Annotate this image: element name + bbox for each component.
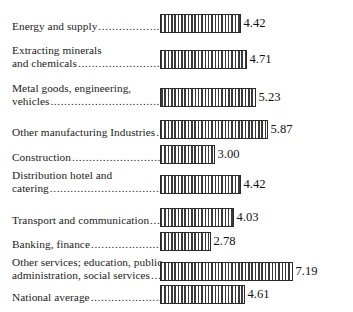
- category-label-line: Transport and communication......: [12, 214, 160, 227]
- chart-row: Other manufacturing Industries....5.87: [0, 119, 353, 139]
- bar-cell: 5.87: [160, 119, 293, 139]
- category-label: Transport and communication......: [0, 214, 160, 227]
- leader-dots: ......: [150, 214, 160, 227]
- leader-dots: ......: [151, 269, 160, 282]
- horizontal-bar-chart: Energy and supply.......................…: [0, 0, 353, 312]
- category-label-line: catering................................…: [12, 182, 160, 195]
- category-label-text: catering: [12, 182, 49, 195]
- category-label: Other manufacturing Industries....: [0, 126, 160, 139]
- bar: [160, 232, 211, 251]
- bar: [160, 14, 241, 33]
- bar-value-label: 3.00: [218, 148, 240, 161]
- category-label-line: Other services; education, public: [12, 256, 160, 269]
- bar: [160, 88, 256, 107]
- category-label: Other services; education, publicadminis…: [0, 256, 160, 281]
- category-label-line: vehicles................................…: [12, 95, 160, 108]
- bar-value-label: 7.19: [296, 265, 318, 278]
- leader-dots: ..............................: [91, 291, 160, 304]
- category-label-text: administration, social services: [12, 269, 150, 282]
- chart-row: Construction............................…: [0, 144, 353, 164]
- bar-cell: 4.71: [160, 50, 272, 70]
- category-label: Construction............................…: [0, 151, 160, 164]
- leader-dots: ........................................: [50, 95, 160, 108]
- category-label: Energy and supply.......................…: [0, 20, 160, 33]
- chart-row: National average........................…: [0, 284, 353, 304]
- leader-dots: .............................: [91, 238, 160, 251]
- category-label-line: Distribution hotel and: [12, 169, 160, 182]
- category-label-line: National average........................…: [12, 291, 160, 304]
- chart-row: Metal goods, engineering,vehicles.......…: [0, 82, 353, 107]
- category-label-text: and chemicals: [12, 57, 77, 70]
- category-label-text: Transport and communication: [12, 214, 149, 227]
- leader-dots: ..........................: [98, 20, 160, 33]
- bar: [160, 120, 268, 139]
- leader-dots: ...................................: [72, 151, 160, 164]
- bar-cell: 2.78: [160, 231, 236, 251]
- category-label: Banking, finance........................…: [0, 238, 160, 251]
- bar-cell: 7.19: [160, 262, 318, 282]
- leader-dots: ..............................: [78, 57, 160, 70]
- category-label: National average........................…: [0, 291, 160, 304]
- category-label-line: Extracting minerals: [12, 44, 160, 57]
- bar: [160, 175, 241, 194]
- chart-row: Other services; education, publicadminis…: [0, 256, 353, 281]
- category-label: Distribution hotel andcatering..........…: [0, 169, 160, 194]
- bar-value-label: 4.71: [250, 53, 272, 66]
- category-label-text: Banking, finance: [12, 238, 90, 251]
- bar-cell: 4.42: [160, 13, 266, 33]
- bar: [160, 145, 215, 164]
- chart-row: Banking, finance........................…: [0, 231, 353, 251]
- bar-cell: 5.23: [160, 88, 281, 108]
- bar-value-label: 4.03: [237, 211, 259, 224]
- category-label: Extracting mineralsand chemicals........…: [0, 44, 160, 69]
- category-label-line: Other manufacturing Industries....: [12, 126, 160, 139]
- bar-value-label: 4.61: [248, 288, 270, 301]
- category-label-text: vehicles: [12, 95, 49, 108]
- bar-cell: 4.61: [160, 284, 270, 304]
- category-label-line: administration, social services......: [12, 269, 160, 282]
- bar-value-label: 4.42: [244, 17, 266, 30]
- bar-cell: 4.03: [160, 207, 259, 227]
- bar: [160, 50, 247, 69]
- category-label: Metal goods, engineering,vehicles.......…: [0, 82, 160, 107]
- category-label-line: Banking, finance........................…: [12, 238, 160, 251]
- category-label-line: Metal goods, engineering,: [12, 82, 160, 95]
- category-label-line: and chemicals...........................…: [12, 57, 160, 70]
- leader-dots: ........................................: [50, 182, 160, 195]
- category-label-text: Construction: [12, 151, 71, 164]
- chart-row: Distribution hotel andcatering..........…: [0, 169, 353, 194]
- bar: [160, 262, 293, 281]
- category-label-line: Energy and supply.......................…: [12, 20, 160, 33]
- bar-value-label: 5.23: [259, 91, 281, 104]
- chart-row: Extracting mineralsand chemicals........…: [0, 44, 353, 69]
- chart-row: Energy and supply.......................…: [0, 13, 353, 33]
- bar: [160, 285, 245, 304]
- bar-value-label: 4.42: [244, 178, 266, 191]
- category-label-text: National average: [12, 291, 90, 304]
- category-label-text: Energy and supply: [12, 20, 97, 33]
- chart-row: Transport and communication......4.03: [0, 207, 353, 227]
- bar-cell: 4.42: [160, 175, 266, 195]
- category-label-line: Construction............................…: [12, 151, 160, 164]
- bar-value-label: 2.78: [214, 235, 236, 248]
- bar: [160, 208, 234, 227]
- bar-cell: 3.00: [160, 144, 240, 164]
- category-label-text: Other manufacturing Industries: [12, 126, 155, 139]
- bar-value-label: 5.87: [271, 123, 293, 136]
